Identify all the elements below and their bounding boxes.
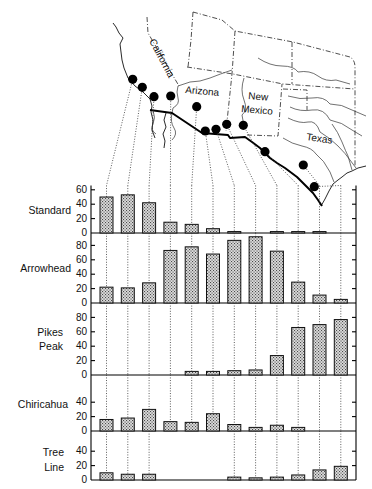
bar [292, 327, 305, 375]
y-tick-label: 0 [81, 369, 87, 380]
bar [185, 422, 198, 431]
panel-pikes-peak: 020406080PikesPeak [37, 303, 356, 380]
y-tick-label: 80 [76, 312, 88, 323]
panel-chiricahua: 02040Chiricahua [18, 375, 356, 436]
site-dot [222, 120, 231, 129]
panel-label: Pikes [37, 326, 63, 338]
bar [207, 414, 220, 431]
leader-line [227, 124, 256, 185]
site-dot [260, 147, 269, 156]
site-dots [128, 75, 319, 192]
y-tick-label: 20 [76, 213, 88, 224]
panel-label: Peak [39, 340, 64, 352]
y-tick-label: 20 [76, 411, 88, 422]
y-tick-label: 0 [81, 227, 87, 238]
panel-label: Standard [28, 204, 71, 216]
site-dot [310, 182, 319, 191]
panel-label: Tree [43, 446, 64, 458]
bar [143, 409, 156, 431]
site-dot [239, 121, 248, 130]
bar [270, 232, 283, 233]
bar [143, 474, 156, 480]
y-tick-label: 20 [76, 283, 88, 294]
site-dot [211, 125, 220, 134]
leader-lines [107, 79, 341, 186]
bar [164, 222, 177, 233]
site-dot [201, 126, 210, 135]
bar [100, 287, 113, 303]
bar [100, 197, 113, 233]
leader-line [128, 87, 143, 185]
mexico-border [150, 110, 322, 206]
bar [270, 425, 283, 431]
bar [292, 232, 305, 233]
panel-label: Chiricahua [18, 398, 68, 410]
y-tick-label: 60 [76, 184, 88, 195]
bar [249, 478, 262, 480]
bar [228, 425, 241, 431]
texas-river-3 [290, 107, 362, 136]
bar [207, 371, 220, 375]
y-tick-label: 40 [76, 268, 88, 279]
y-tick-label: 40 [76, 340, 88, 351]
texas-river-2 [288, 96, 366, 116]
bar [334, 466, 347, 480]
bar [207, 254, 220, 303]
texas-river-6 [332, 124, 352, 170]
bar [207, 229, 220, 233]
bar [292, 282, 305, 303]
bar [270, 477, 283, 480]
bar [121, 418, 134, 431]
bar [313, 470, 326, 480]
bar [313, 325, 326, 375]
bar [313, 232, 326, 233]
bar [185, 224, 198, 233]
y-tick-label: 0 [81, 297, 87, 308]
leader-line [243, 125, 277, 185]
bar [292, 475, 305, 480]
bar [143, 203, 156, 233]
bar [228, 371, 241, 375]
nevada-utah-border [188, 12, 193, 67]
map-label-california: California [147, 37, 177, 80]
y-tick-label: 40 [76, 198, 88, 209]
leader-line [205, 131, 213, 185]
y-tick-label: 20 [76, 460, 88, 471]
bar [121, 474, 134, 480]
bar [334, 320, 347, 375]
site-dot [166, 91, 175, 100]
site-dot [192, 102, 201, 111]
figure: California Arizona New Mexico Texas 0204… [0, 0, 372, 489]
map-label-texas: Texas [306, 131, 333, 146]
bar [164, 250, 177, 303]
bar [249, 427, 262, 431]
bar [185, 371, 198, 375]
bar [164, 422, 177, 431]
y-tick-label: 60 [76, 254, 88, 265]
site-dot [299, 160, 308, 169]
map-label-new-mexico-line2: Mexico [241, 103, 274, 117]
y-tick-label: 0 [81, 425, 87, 436]
arizona-new-mexico-border [226, 31, 235, 131]
panel-tree-line: 02040TreeLine [43, 431, 356, 485]
gulf-of-california-coast [163, 113, 166, 148]
y-tick-label: 20 [76, 355, 88, 366]
bar [249, 370, 262, 375]
site-dot [128, 75, 137, 84]
y-tick-label: 40 [76, 396, 88, 407]
leader-line [107, 79, 133, 185]
panel-standard: 0204060Standard [28, 184, 356, 238]
leader-line [192, 107, 197, 186]
bar [143, 283, 156, 303]
bar [334, 299, 347, 303]
y-tick-label: 60 [76, 326, 88, 337]
y-tick-label: 0 [81, 474, 87, 485]
site-dot [138, 83, 147, 92]
bar [249, 237, 262, 303]
bar [313, 295, 326, 303]
bar-panels: 0204060Standard020406080Arrowhead0204060… [18, 184, 356, 485]
bar [228, 240, 241, 303]
site-dot [149, 92, 158, 101]
bar [292, 427, 305, 431]
y-tick-label: 40 [76, 445, 88, 456]
